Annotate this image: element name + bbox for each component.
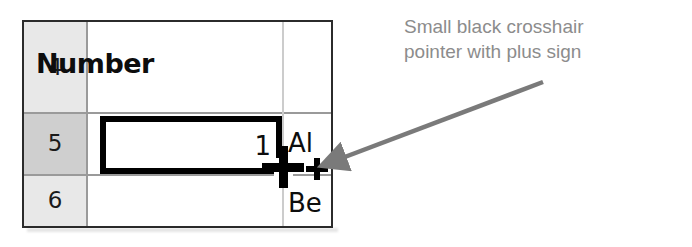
row-header-5[interactable]: 5 [24, 112, 88, 174]
crosshair-notch [288, 158, 293, 163]
annotation-line-2: pointer with plus sign [404, 39, 684, 64]
spreadsheet-drop-shadow [27, 228, 338, 232]
crosshair-notch [274, 158, 279, 163]
annotation-label: Small black crosshair pointer with plus … [404, 14, 684, 64]
column-header-cell-number[interactable]: Number [36, 48, 154, 79]
grid-line-vertical [282, 22, 284, 226]
annotation-arrow-icon [295, 70, 555, 180]
neighbor-cell-row6[interactable]: Be [288, 188, 322, 218]
crosshair-notch [288, 172, 293, 177]
annotation-line-1: Small black crosshair [404, 14, 684, 39]
selected-cell[interactable]: 1 [100, 116, 282, 174]
crosshair-vertical-bar [279, 146, 288, 188]
crosshair-cursor-icon [262, 146, 304, 188]
grid-line-horizontal [24, 112, 331, 114]
crosshair-notch [274, 172, 279, 177]
row-header-6[interactable]: 6 [24, 174, 88, 226]
plus-vertical-bar [314, 158, 320, 180]
plus-sign-icon [306, 158, 328, 180]
spreadsheet-fragment: 4 5 6 Number 1 Al Be [22, 20, 333, 228]
